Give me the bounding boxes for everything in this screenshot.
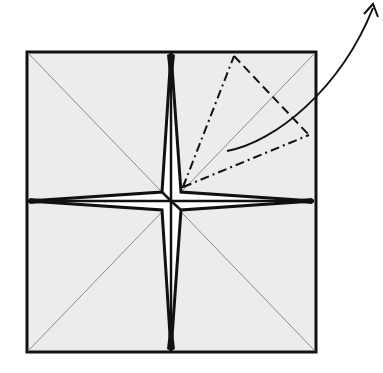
origami-diagram bbox=[0, 0, 383, 373]
